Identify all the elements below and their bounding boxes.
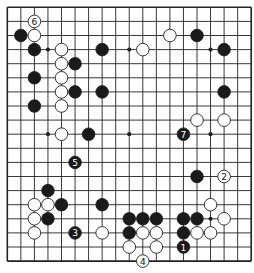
numbered-black-stone: 7 <box>177 128 190 141</box>
black-stone <box>42 184 55 197</box>
black-stone <box>82 128 95 141</box>
star-point <box>46 48 50 52</box>
numbered-white-stone: 2 <box>218 170 231 183</box>
stones: 1234567 <box>15 15 231 267</box>
black-stone <box>150 213 163 226</box>
white-stone <box>28 29 41 42</box>
numbered-white-stone: 6 <box>28 15 41 28</box>
move-number: 4 <box>140 257 146 267</box>
black-stone <box>177 213 190 226</box>
black-stone <box>123 227 136 240</box>
black-stone <box>69 57 82 70</box>
white-stone <box>96 227 109 240</box>
move-number: 7 <box>181 130 187 140</box>
star-point <box>46 132 50 136</box>
black-stone <box>137 213 150 226</box>
black-stone <box>55 198 68 211</box>
black-stone <box>191 170 204 183</box>
black-stone <box>69 86 82 99</box>
white-stone <box>55 128 68 141</box>
star-point <box>127 132 131 136</box>
black-stone <box>218 86 231 99</box>
white-stone <box>55 43 68 56</box>
black-stone <box>96 86 109 99</box>
move-number: 6 <box>32 17 38 27</box>
star-point <box>127 48 131 52</box>
black-stone <box>28 100 41 113</box>
star-point <box>208 132 212 136</box>
white-stone <box>55 100 68 113</box>
numbered-black-stone: 5 <box>69 156 82 169</box>
white-stone <box>42 198 55 211</box>
black-stone <box>15 29 28 42</box>
white-stone <box>55 86 68 99</box>
move-number: 1 <box>181 243 187 253</box>
white-stone <box>55 72 68 85</box>
move-number: 5 <box>72 158 78 168</box>
white-stone <box>28 213 41 226</box>
black-stone <box>123 213 136 226</box>
white-stone <box>137 43 150 56</box>
black-stone <box>42 213 55 226</box>
white-stone <box>164 29 177 42</box>
white-stone <box>28 227 41 240</box>
black-stone <box>96 198 109 211</box>
move-number: 2 <box>221 172 227 182</box>
white-stone <box>218 114 231 127</box>
white-stone <box>150 241 163 254</box>
black-stone <box>28 72 41 85</box>
black-stone <box>191 213 204 226</box>
white-stone <box>191 114 204 127</box>
white-stone <box>191 227 204 240</box>
star-point <box>208 217 212 221</box>
go-board: 1234567 <box>0 0 254 273</box>
move-number: 3 <box>72 228 78 238</box>
black-stone <box>96 43 109 56</box>
white-stone <box>204 198 217 211</box>
star-point <box>208 48 212 52</box>
black-stone <box>218 43 231 56</box>
white-stone <box>55 57 68 70</box>
white-stone <box>218 213 231 226</box>
white-stone <box>28 198 41 211</box>
numbered-black-stone: 3 <box>69 227 82 240</box>
numbered-black-stone: 1 <box>177 241 190 254</box>
black-stone <box>177 227 190 240</box>
white-stone <box>204 227 217 240</box>
black-stone <box>191 29 204 42</box>
white-stone <box>137 227 150 240</box>
numbered-white-stone: 4 <box>137 255 150 268</box>
white-stone <box>123 241 136 254</box>
white-stone <box>150 227 163 240</box>
black-stone <box>28 43 41 56</box>
